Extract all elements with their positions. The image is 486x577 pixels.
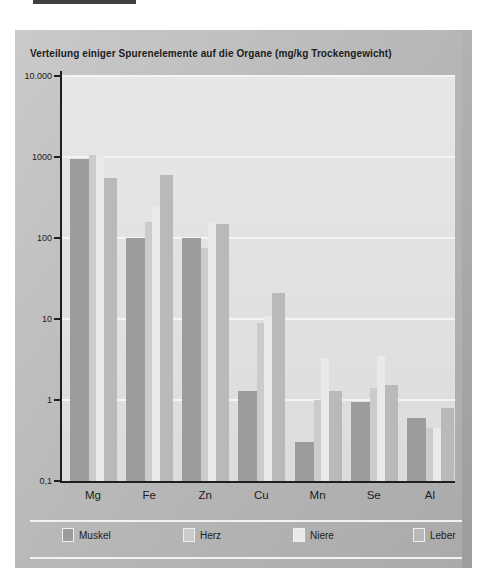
bar-leber-fe	[160, 175, 173, 481]
bar-herz-fe	[145, 222, 152, 482]
panel-shadow-edge	[462, 30, 472, 568]
bar-herz-mn	[314, 400, 321, 481]
bar-leber-al	[441, 408, 454, 481]
bar-niere-fe	[152, 206, 160, 481]
bar-leber-cu	[272, 293, 285, 481]
bar-herz-mg	[89, 155, 96, 481]
bar-muskel-al	[407, 418, 426, 481]
y-tick-label: 1000	[18, 152, 52, 162]
bar-muskel-mg	[70, 159, 89, 481]
bar-leber-se	[385, 385, 398, 481]
gridline	[62, 318, 455, 320]
bar-herz-cu	[257, 323, 264, 481]
bar-niere-zn	[208, 222, 216, 482]
x-category-label: Se	[354, 489, 394, 501]
plot-area: 10.00010001001010,1MgFeZnCuMnSeAl	[62, 76, 455, 481]
bar-muskel-cu	[238, 391, 257, 481]
figure-panel: Verteilung einiger Spurenelemente auf di…	[15, 30, 472, 568]
bar-muskel-fe	[126, 238, 145, 481]
gridline	[62, 75, 455, 77]
y-tick	[54, 399, 60, 401]
bar-muskel-se	[351, 402, 370, 481]
legend-divider-bottom	[30, 557, 462, 559]
bar-niere-al	[433, 428, 441, 481]
x-category-label: Cu	[241, 489, 281, 501]
legend-label-herz: Herz	[200, 530, 221, 541]
bar-leber-zn	[216, 224, 229, 481]
gridline	[62, 156, 455, 158]
gridline	[62, 237, 455, 239]
bar-niere-cu	[264, 316, 272, 481]
x-category-label: Mn	[298, 489, 338, 501]
y-tick	[54, 237, 60, 239]
bar-leber-mn	[329, 391, 342, 481]
legend-label-niere: Niere	[310, 530, 334, 541]
bar-herz-zn	[201, 248, 208, 481]
x-category-label: Fe	[129, 489, 169, 501]
y-tick-label: 10	[18, 314, 52, 324]
x-category-label: Zn	[185, 489, 225, 501]
legend-label-muskel: Muskel	[79, 530, 111, 541]
y-tick	[54, 480, 60, 482]
x-axis-line	[60, 481, 455, 483]
y-tick-label: 0,1	[18, 476, 52, 486]
y-tick	[54, 318, 60, 320]
legend-swatch-leber	[413, 528, 425, 542]
cropped-page-element	[33, 0, 136, 4]
y-tick	[54, 156, 60, 158]
x-category-label: Al	[410, 489, 450, 501]
y-axis-line	[60, 71, 62, 483]
y-tick-label: 10.000	[18, 71, 52, 81]
legend-swatch-niere	[293, 528, 305, 542]
bar-leber-mg	[104, 178, 117, 481]
bar-herz-se	[370, 388, 377, 481]
y-tick	[54, 75, 60, 77]
legend-swatch-muskel	[62, 528, 74, 542]
chart-title: Verteilung einiger Spurenelemente auf di…	[30, 48, 450, 59]
legend-swatch-herz	[183, 528, 195, 542]
bar-muskel-mn	[295, 442, 314, 481]
bar-niere-mn	[321, 358, 329, 481]
bar-herz-al	[426, 428, 433, 481]
y-tick-label: 100	[18, 233, 52, 243]
bar-niere-mg	[96, 155, 104, 481]
legend-divider-top	[30, 520, 462, 522]
y-tick-label: 1	[18, 395, 52, 405]
bar-muskel-zn	[182, 238, 201, 481]
legend-label-leber: Leber	[430, 530, 456, 541]
x-category-label: Mg	[73, 489, 113, 501]
bar-niere-se	[377, 356, 385, 481]
